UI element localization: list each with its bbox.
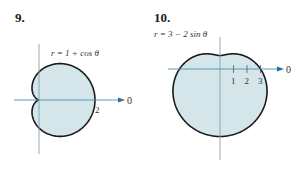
polar-axis-label: 0 — [127, 95, 132, 106]
arrow-icon — [277, 67, 284, 72]
figure-9: 9. 0 2 r = 1 + cos θ — [0, 0, 150, 189]
polar-axis-label: 0 — [286, 64, 291, 75]
tick-label-2: 2 — [95, 105, 100, 115]
arrow-icon — [118, 98, 125, 103]
tick-label-1: 1 — [231, 76, 236, 86]
equation-label: r = 1 + cos θ — [51, 48, 99, 58]
tick-label-2: 2 — [245, 76, 250, 86]
equation-label: r = 3 − 2 sin θ — [154, 29, 208, 39]
polar-graph-limacon: 1 2 3 0 r = 3 − 2 sin θ — [150, 0, 299, 189]
figure-10: 10. 1 2 3 0 r = 3 − 2 sin θ — [150, 0, 299, 189]
tick-label-3: 3 — [258, 76, 263, 86]
polar-graph-cardioid: 0 2 r = 1 + cos θ — [0, 0, 150, 189]
